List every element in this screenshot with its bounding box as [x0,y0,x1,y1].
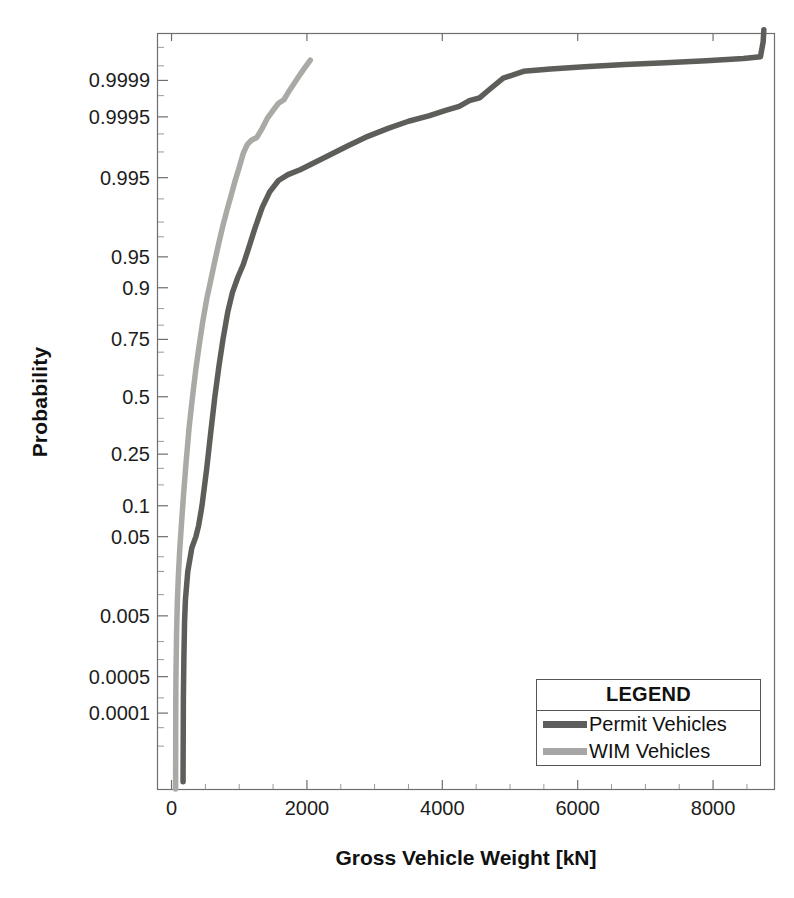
x-tick-label: 0 [112,798,232,818]
legend-box: LEGEND Permit Vehicles WIM Vehicles [536,679,761,766]
y-axis-title: Probability [28,322,52,482]
x-tick-label: 2000 [247,798,367,818]
x-tick-label: 8000 [653,798,773,818]
legend-label-permit-vehicles: Permit Vehicles [589,713,727,736]
x-axis-title: Gross Vehicle Weight [kN] [157,846,775,870]
legend-item-permit-vehicles: Permit Vehicles [537,711,760,738]
probability-plot-figure: 0.00010.00050.0050.050.10.250.50.750.90.… [0,0,794,898]
legend-swatch-permit-vehicles [543,721,587,728]
x-tick-label: 4000 [382,798,502,818]
legend-item-wim-vehicles: WIM Vehicles [537,738,760,765]
legend-label-wim-vehicles: WIM Vehicles [589,740,710,763]
x-tick-label: 6000 [518,798,638,818]
legend-title: LEGEND [537,680,760,711]
legend-swatch-wim-vehicles [543,748,587,755]
